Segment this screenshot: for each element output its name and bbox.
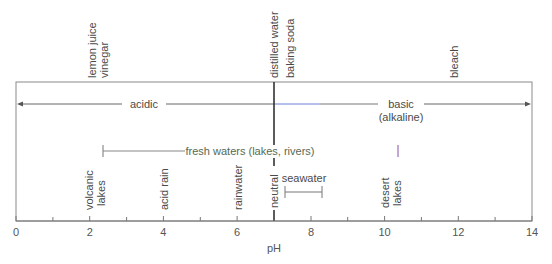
neutral-label: neutral	[268, 174, 280, 208]
bottom-label-rainwater: rainwater	[232, 164, 244, 210]
baking-soda-label: baking soda	[284, 18, 296, 78]
top-label-distilled-baking: distilled water baking soda	[268, 11, 296, 78]
tick-label-8: 8	[308, 226, 314, 238]
rainwater-label: rainwater	[232, 164, 244, 210]
tick-label-14: 14	[526, 226, 538, 238]
bottom-label-neutral: neutral	[268, 174, 280, 208]
bottom-label-desert-lakes: desert lakes	[379, 177, 403, 208]
lemon-juice-label: lemon juice	[86, 22, 98, 78]
desert-label: desert	[379, 177, 391, 208]
bottom-label-acid-rain: acid rain	[158, 168, 170, 210]
distilled-water-label: distilled water	[268, 11, 280, 78]
fresh-waters-label: fresh waters (lakes, rivers)	[186, 145, 315, 157]
top-label-lemon-vinegar: lemon juice vinegar	[86, 22, 110, 78]
ph-scale-svg: acidic basic (alkaline) fresh waters (la…	[0, 0, 552, 264]
tick-label-12: 12	[452, 226, 464, 238]
top-label-bleach: bleach	[448, 46, 460, 78]
seawater-range	[285, 186, 322, 198]
tick-label-4: 4	[160, 226, 166, 238]
bottom-label-volcanic-lakes: volcanic lakes	[83, 170, 107, 210]
volcanic-label: volcanic	[83, 170, 95, 210]
ph-scale-diagram: acidic basic (alkaline) fresh waters (la…	[0, 0, 552, 264]
desert-lakes-label: lakes	[391, 180, 403, 206]
arrow-left-icon	[17, 102, 23, 107]
axis-title: pH	[267, 242, 281, 254]
tick-label-0: 0	[13, 226, 19, 238]
basic-label: basic	[388, 98, 414, 110]
lakes-label: lakes	[95, 180, 107, 206]
bleach-label: bleach	[448, 46, 460, 78]
tick-label-6: 6	[234, 226, 240, 238]
tick-label-2: 2	[87, 226, 93, 238]
tick-label-10: 10	[378, 226, 390, 238]
seawater-label: seawater	[282, 172, 327, 184]
alkaline-label: (alkaline)	[379, 111, 424, 123]
vinegar-label: vinegar	[98, 42, 110, 78]
acidic-label: acidic	[130, 98, 159, 110]
acid-rain-label: acid rain	[158, 168, 170, 210]
arrow-right-icon	[525, 102, 531, 107]
